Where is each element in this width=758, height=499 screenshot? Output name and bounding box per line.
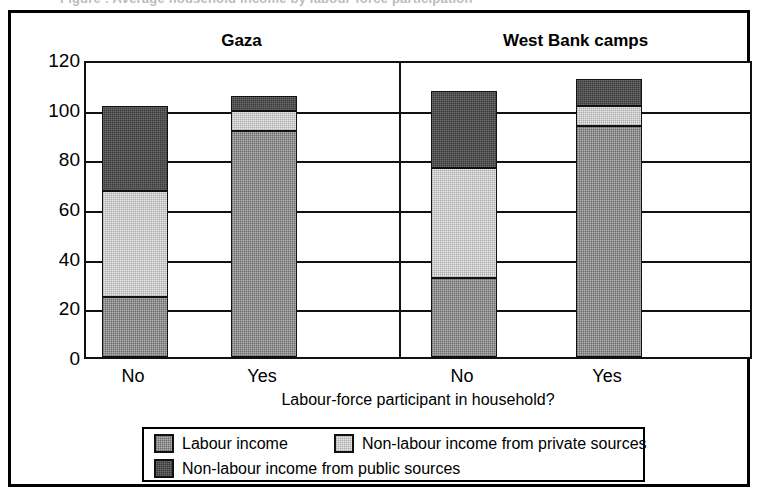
y-axis: 020406080100120 bbox=[16, 61, 80, 359]
scan-artifact-text: Figure : Average household income by lab… bbox=[60, 0, 473, 6]
plot-area bbox=[84, 61, 752, 359]
legend-label-0: Labour income bbox=[182, 431, 288, 456]
bar-segment-public-sources[interactable] bbox=[576, 79, 642, 106]
bar-segment-labour-income[interactable] bbox=[431, 278, 497, 357]
labour-income-swatch bbox=[154, 434, 174, 453]
y-tick-label-120: 120 bbox=[18, 51, 80, 70]
legend-label-2: Non-labour income from public sources bbox=[182, 456, 460, 481]
x-axis-title: Labour-force participant in household? bbox=[84, 391, 752, 409]
gridline-20 bbox=[86, 310, 750, 312]
stacked-bar[interactable] bbox=[576, 79, 642, 357]
x-tick-label-2: No bbox=[422, 363, 502, 389]
x-axis: NoYesNoYes bbox=[84, 363, 752, 391]
bar-segment-private-sources[interactable] bbox=[576, 106, 642, 126]
y-tick-label-80: 80 bbox=[18, 150, 80, 169]
group-title-west-bank-camps: West Bank camps bbox=[399, 27, 752, 55]
stacked-bar[interactable] bbox=[231, 96, 297, 357]
bar-segment-public-sources[interactable] bbox=[431, 91, 497, 168]
x-tick-label-1: Yes bbox=[222, 363, 302, 389]
bar-segment-labour-income[interactable] bbox=[102, 297, 168, 357]
group-header-band: Gaza West Bank camps bbox=[84, 27, 752, 57]
gridline-40 bbox=[86, 261, 750, 263]
x-tick-label-3: Yes bbox=[567, 363, 647, 389]
legend-row: Non-labour income from public sources bbox=[144, 456, 643, 481]
private-sources-swatch bbox=[334, 434, 354, 453]
y-tick-label-20: 20 bbox=[18, 299, 80, 318]
group-title-gaza: Gaza bbox=[84, 27, 399, 55]
figure-frame: Gaza West Bank camps 020406080100120 NoY… bbox=[8, 10, 750, 487]
legend-row: Labour incomeNon-labour income from priv… bbox=[144, 431, 643, 456]
y-tick-label-40: 40 bbox=[18, 250, 80, 269]
legend-label-1: Non-labour income from private sources bbox=[362, 431, 647, 456]
gridline-80 bbox=[86, 161, 750, 163]
public-sources-swatch bbox=[154, 459, 174, 478]
gridline-100 bbox=[86, 112, 750, 114]
bar-segment-private-sources[interactable] bbox=[431, 168, 497, 277]
bar-segment-labour-income[interactable] bbox=[231, 131, 297, 357]
stacked-bar[interactable] bbox=[431, 91, 497, 357]
group-divider bbox=[399, 63, 401, 357]
x-tick-label-0: No bbox=[93, 363, 173, 389]
y-tick-label-0: 0 bbox=[18, 349, 80, 368]
bar-segment-private-sources[interactable] bbox=[231, 111, 297, 131]
bar-segment-public-sources[interactable] bbox=[231, 96, 297, 111]
gridline-60 bbox=[86, 211, 750, 213]
bar-segment-labour-income[interactable] bbox=[576, 126, 642, 357]
scan-edge-artifact: Figure : Average household income by lab… bbox=[0, 0, 758, 8]
stacked-bar[interactable] bbox=[102, 106, 168, 357]
y-tick-label-100: 100 bbox=[18, 101, 80, 120]
y-tick-label-60: 60 bbox=[18, 200, 80, 219]
bar-segment-private-sources[interactable] bbox=[102, 191, 168, 298]
bar-segment-public-sources[interactable] bbox=[102, 106, 168, 190]
chart-legend: Labour incomeNon-labour income from priv… bbox=[142, 427, 645, 482]
